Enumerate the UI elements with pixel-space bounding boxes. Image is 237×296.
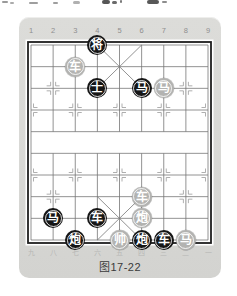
piece-black-13: 车 (154, 230, 174, 250)
piece-label: 车 (65, 57, 85, 77)
top-column-label-7: 7 (156, 26, 172, 36)
top-column-label-3: 3 (67, 26, 83, 36)
piece-gray-5: 马 (154, 78, 174, 98)
piece-black-3: 士 (87, 78, 107, 98)
bottom-column-label-9: 一 (200, 248, 216, 258)
piece-label: 士 (87, 78, 107, 98)
piece-label: 炮 (132, 230, 152, 250)
piece-gray-9: 炮 (132, 208, 152, 228)
top-column-label-5: 5 (112, 26, 128, 36)
top-column-label-9: 9 (200, 26, 216, 36)
piece-gray-6: 车 (132, 187, 152, 207)
piece-gray-2: 车 (65, 57, 85, 77)
bottom-column-label-1: 九 (23, 248, 39, 258)
piece-gray-11: 帅 (110, 230, 130, 250)
piece-label: 帅 (110, 230, 130, 250)
piece-label: 将 (87, 35, 107, 55)
piece-label: 马 (154, 78, 174, 98)
top-column-label-6: 6 (134, 26, 150, 36)
piece-label: 炮 (132, 208, 152, 228)
piece-label: 马 (43, 208, 63, 228)
top-column-label-2: 2 (45, 26, 61, 36)
top-column-label-1: 1 (23, 26, 39, 36)
piece-gray-14: 马 (176, 230, 196, 250)
piece-label: 马 (132, 78, 152, 98)
piece-label: 车 (87, 208, 107, 228)
piece-black-8: 车 (87, 208, 107, 228)
piece-black-1: 将 (87, 35, 107, 55)
xiangqi-diagram: 123456789 九八七六五四三二一 将车士马马车马车炮炮帅炮车马 图17-2… (0, 0, 237, 296)
piece-black-7: 马 (43, 208, 63, 228)
piece-black-4: 马 (132, 78, 152, 98)
piece-black-12: 炮 (132, 230, 152, 250)
piece-black-10: 炮 (65, 230, 85, 250)
bottom-column-label-4: 六 (89, 248, 105, 258)
top-column-label-8: 8 (178, 26, 194, 36)
piece-label: 炮 (65, 230, 85, 250)
piece-label: 车 (154, 230, 174, 250)
piece-label: 马 (176, 230, 196, 250)
bottom-column-label-2: 八 (45, 248, 61, 258)
figure-caption: 图17-22 (19, 261, 221, 274)
piece-label: 车 (132, 187, 152, 207)
